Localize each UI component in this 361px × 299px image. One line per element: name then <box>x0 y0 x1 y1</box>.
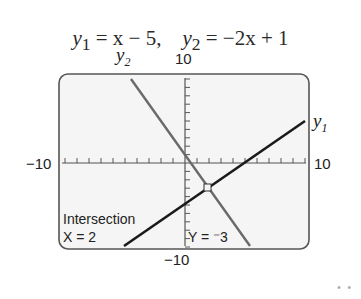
y-readout: Y = ⁻3 <box>188 229 228 245</box>
x-readout: X = 2 <box>63 229 96 245</box>
ymax-label: 10 <box>175 50 192 67</box>
ymin-label: −10 <box>164 251 189 268</box>
xmin-label: −10 <box>26 155 51 172</box>
intersection-cursor <box>204 184 211 191</box>
y1-label: y1 <box>313 110 327 136</box>
intersection-label: Intersection <box>63 211 135 227</box>
xmax-label: 10 <box>314 155 331 172</box>
y2-label: y2 <box>116 44 130 70</box>
decorative-dots: • • <box>337 282 353 293</box>
